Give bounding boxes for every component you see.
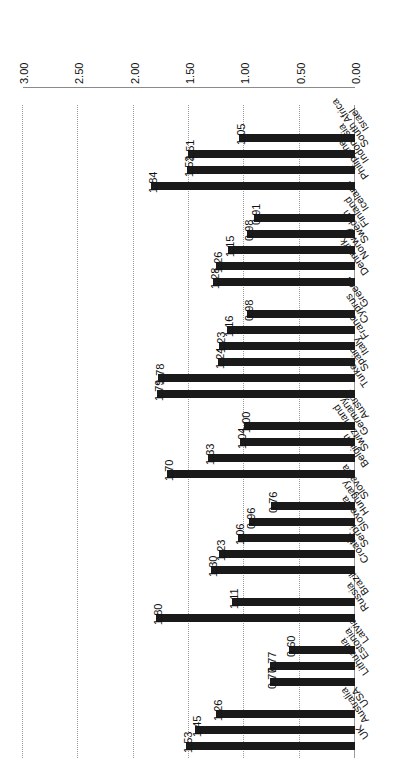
bar-value-label: 1.23 [215,540,227,561]
bar-estonia [270,662,355,670]
bar-value-label: 0.60 [285,636,297,657]
bar-value-label: 1.11 [228,588,240,609]
bar-value-label: 1.51 [184,140,196,161]
bar-croatia [211,566,355,574]
bar-value-label: 1.78 [154,364,166,385]
bar-austria [244,422,355,430]
bar-philippines [151,182,355,190]
bar-australia [195,726,355,734]
bar-norway [216,262,355,270]
bar-switzerland [208,454,355,462]
bar-serbia [219,550,355,558]
bar-sweden [228,246,355,254]
plot-area: 0.000.501.001.502.002.503.001.53UK1.45Au… [0,0,414,776]
bar-finland [247,230,355,238]
bar-value-label: 1.00 [240,412,252,433]
bar-cyprus [227,326,355,334]
x-tick-label: 1.00 [239,63,251,84]
bar-indonesia [187,166,355,174]
x-tick-label: 2.00 [129,63,141,84]
bar-lithuania [270,678,355,686]
bar-value-label: 1.26 [212,252,224,273]
x-tick-label: 0.00 [350,63,362,84]
bar-value-label: 0.98 [243,300,255,321]
bar-usa [216,710,355,718]
x-tick-label: 3.00 [18,63,30,84]
gridline-3.00 [22,105,23,758]
category-label-uk: UK [353,723,371,742]
bar-brazil [232,598,355,606]
bar-value-label: 1.84 [147,172,159,193]
bar-slovakia [271,502,355,510]
bar-greece [247,310,355,318]
bar-value-label: 1.15 [224,236,236,257]
chart-figure: 0.000.501.001.502.002.503.001.53UK1.45Au… [0,0,414,776]
bar-value-label: 1.05 [235,124,247,145]
gridline-0.50 [299,105,300,758]
gridline-2.00 [133,105,134,758]
value-axis-line [23,87,355,88]
bar-value-label: 0.77 [266,652,278,673]
bar-value-label: 0.96 [245,508,257,529]
bar-value-label: 1.06 [234,524,246,545]
bar-value-label: 0.91 [250,204,262,225]
bar-italy [218,358,355,366]
bar-south-africa [188,150,355,158]
bar-israel [239,134,355,142]
bar-latvia [289,646,355,654]
bar-belgium [167,470,355,478]
x-tick-label: 1.50 [184,63,196,84]
bar-slovenia [238,534,355,542]
gridline-1.50 [188,105,189,758]
x-tick-label: 2.50 [73,63,85,84]
bar-germany [240,438,355,446]
bar-denmark [213,278,355,286]
bar-value-label: 0.76 [267,492,279,513]
bar-value-label: 1.33 [204,444,216,465]
bar-turkey [157,390,355,398]
bar-hungary [249,518,355,526]
bar-value-label: 1.70 [163,460,175,481]
gridline-2.50 [77,105,78,758]
bar-france [219,342,355,350]
x-tick-label: 0.50 [295,63,307,84]
bar-value-label: 1.26 [212,700,224,721]
bar-iceland [254,214,355,222]
bar-russia [156,614,355,622]
bar-value-label: 1.80 [152,604,164,625]
bar-value-label: 1.45 [191,716,203,737]
bar-uk [186,742,355,750]
bar-value-label: 1.16 [223,316,235,337]
bar-spain [158,374,355,382]
